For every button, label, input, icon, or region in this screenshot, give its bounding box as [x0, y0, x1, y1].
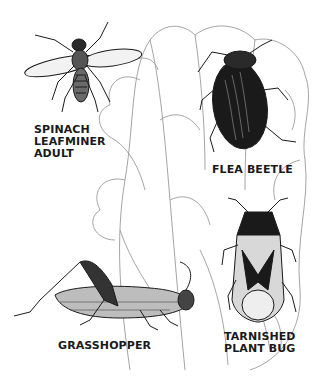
- label-line: GRASSHOPPER: [58, 340, 151, 352]
- label-grasshopper: GRASSHOPPER: [58, 340, 151, 352]
- label-line: ADULT: [34, 148, 106, 160]
- grasshopper-drawing: [14, 261, 194, 330]
- plant-bug-drawing: [222, 198, 296, 322]
- label-flea-beetle: FLEA BEETLE: [212, 164, 293, 176]
- label-line: PLANT BUG: [224, 343, 296, 355]
- leafminer-fly-drawing: [23, 22, 143, 112]
- pest-illustration: [0, 0, 319, 383]
- label-spinach-leafminer-adult: SPINACH LEAFMINER ADULT: [34, 124, 106, 160]
- label-line: FLEA BEETLE: [212, 164, 293, 176]
- flea-beetle-drawing: [198, 40, 296, 152]
- label-tarnished-plant-bug: TARNISHED PLANT BUG: [224, 331, 296, 355]
